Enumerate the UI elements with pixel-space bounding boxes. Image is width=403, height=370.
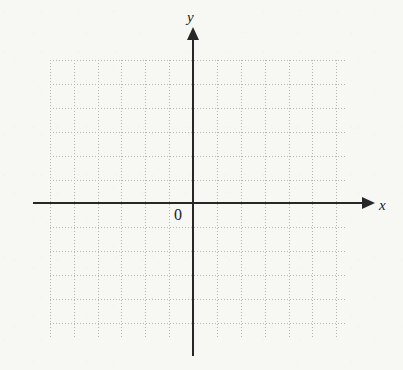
gridline-horizontal	[50, 275, 345, 276]
gridline-vertical	[169, 60, 170, 338]
y-axis-arrow-icon	[187, 27, 199, 40]
gridline-horizontal	[50, 84, 345, 85]
gridline-horizontal	[50, 108, 345, 109]
y-axis-label: y	[187, 10, 194, 25]
gridline-vertical	[74, 60, 75, 338]
gridline-horizontal	[50, 227, 345, 228]
origin-label: 0	[174, 207, 182, 223]
gridline-horizontal	[50, 180, 345, 181]
x-axis-line	[33, 202, 370, 204]
gridline-vertical	[312, 60, 313, 338]
coordinate-plane-figure: y x 0	[0, 0, 403, 370]
gridline-horizontal	[50, 323, 345, 324]
gridline-horizontal	[50, 132, 345, 133]
y-axis-line	[192, 38, 194, 356]
gridline-vertical	[217, 60, 218, 338]
grid-area	[50, 60, 345, 338]
gridline-vertical	[98, 60, 99, 338]
gridline-vertical	[336, 60, 337, 338]
gridline-horizontal	[50, 299, 345, 300]
gridline-horizontal	[50, 156, 345, 157]
gridline-vertical	[145, 60, 146, 338]
gridline-horizontal	[50, 251, 345, 252]
x-axis-label: x	[379, 198, 386, 213]
gridline-vertical	[241, 60, 242, 338]
gridline-vertical	[289, 60, 290, 338]
x-axis-arrow-icon	[362, 197, 375, 209]
gridline-vertical	[265, 60, 266, 338]
gridline-vertical	[50, 60, 51, 338]
gridline-vertical	[121, 60, 122, 338]
gridline-horizontal	[50, 60, 345, 61]
